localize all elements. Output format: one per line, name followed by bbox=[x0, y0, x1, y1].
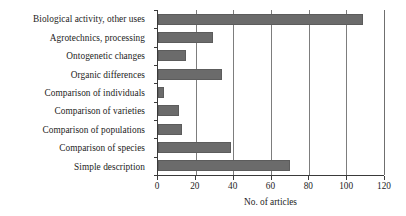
category-label-cell: Comparison of species bbox=[0, 139, 151, 157]
bar-row bbox=[158, 120, 384, 138]
value-axis-tick-label: 40 bbox=[228, 180, 237, 192]
category-label-cell: Ontogenetic changes bbox=[0, 47, 151, 65]
value-axis-tick-label: 120 bbox=[377, 180, 391, 192]
bar-row bbox=[158, 47, 384, 65]
category-label-cell: Comparison of individuals bbox=[0, 84, 151, 102]
category-label: Ontogenetic changes bbox=[66, 51, 145, 61]
plot-area bbox=[157, 10, 384, 176]
category-label: Comparison of individuals bbox=[45, 88, 145, 98]
bar bbox=[158, 32, 213, 43]
bar bbox=[158, 105, 179, 116]
bar-row bbox=[158, 28, 384, 46]
bar bbox=[158, 87, 164, 98]
bar-row bbox=[158, 102, 384, 120]
value-axis-tick-label: 0 bbox=[155, 180, 160, 192]
value-axis-tick-labels: 020406080100120 bbox=[157, 180, 384, 194]
value-axis-title: No. of articles bbox=[157, 196, 384, 208]
category-label-cell: Comparison of varieties bbox=[0, 102, 151, 120]
category-label-cell: Comparison of populations bbox=[0, 121, 151, 139]
bar bbox=[158, 69, 222, 80]
category-label-cell: Organic differences bbox=[0, 65, 151, 83]
category-axis-labels: Biological activity, other usesAgrotechn… bbox=[0, 10, 151, 176]
category-label: Biological activity, other uses bbox=[33, 14, 145, 24]
value-axis-tick-label: 100 bbox=[339, 180, 353, 192]
value-axis-tick-label: 60 bbox=[266, 180, 275, 192]
bar bbox=[158, 142, 231, 153]
bar bbox=[158, 14, 363, 25]
bar-series bbox=[158, 10, 384, 175]
category-label: Organic differences bbox=[71, 70, 145, 80]
bar bbox=[158, 160, 290, 171]
category-label: Comparison of populations bbox=[43, 125, 145, 135]
bar-chart-figure: Biological activity, other usesAgrotechn… bbox=[0, 0, 406, 216]
value-axis-tick-label: 80 bbox=[304, 180, 313, 192]
bar-row bbox=[158, 138, 384, 156]
category-label-cell: Agrotechnics, processing bbox=[0, 28, 151, 46]
bar-row bbox=[158, 83, 384, 101]
gridline bbox=[384, 10, 385, 175]
bar-row bbox=[158, 10, 384, 28]
category-label: Agrotechnics, processing bbox=[50, 33, 145, 43]
category-label-cell: Simple description bbox=[0, 158, 151, 176]
category-label: Comparison of species bbox=[59, 143, 145, 153]
value-axis-tick-label: 20 bbox=[190, 180, 199, 192]
category-label: Comparison of varieties bbox=[55, 106, 145, 116]
category-label: Simple description bbox=[74, 162, 145, 172]
category-label-cell: Biological activity, other uses bbox=[0, 10, 151, 28]
bar-row bbox=[158, 65, 384, 83]
bar bbox=[158, 124, 182, 135]
bar bbox=[158, 50, 186, 61]
bar-row bbox=[158, 157, 384, 175]
